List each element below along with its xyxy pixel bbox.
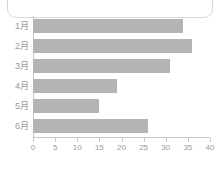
bar [33, 39, 192, 53]
axis-tick-label: 5 [45, 143, 65, 153]
horizontal-bar-chart: 1月2月3月4月5月6月 0510152025303540 [0, 0, 221, 169]
axis-tick-label: 20 [112, 143, 132, 153]
axis-tick [210, 138, 211, 142]
axis-tick [55, 138, 56, 142]
category-label: 5月 [15, 99, 29, 113]
plot-area: 1月2月3月4月5月6月 [33, 16, 210, 136]
axis-tick [188, 138, 189, 142]
axis-tick-label: 25 [134, 143, 154, 153]
axis-tick [144, 138, 145, 142]
axis-tick [33, 138, 34, 142]
axis-tick [122, 138, 123, 142]
bar [33, 99, 99, 113]
axis-tick-label: 15 [89, 143, 109, 153]
axis-tick-label: 30 [156, 143, 176, 153]
bar [33, 79, 117, 93]
bar [33, 119, 148, 133]
category-label: 2月 [15, 39, 29, 53]
axis-tick [77, 138, 78, 142]
bar-row: 2月 [33, 36, 210, 56]
bar [33, 19, 183, 33]
axis-tick-label: 35 [178, 143, 198, 153]
axis-tick-label: 0 [23, 143, 43, 153]
category-label: 6月 [15, 119, 29, 133]
screenshot-root: 1月2月3月4月5月6月 0510152025303540 [0, 0, 221, 169]
bar-row: 1月 [33, 16, 210, 36]
category-label: 1月 [15, 19, 29, 33]
axis-tick [166, 138, 167, 142]
axis-tick-label: 40 [200, 143, 220, 153]
bar-row: 6月 [33, 116, 210, 136]
axis-tick [99, 138, 100, 142]
bar-row: 5月 [33, 96, 210, 116]
axis-tick-label: 10 [67, 143, 87, 153]
bar-row: 4月 [33, 76, 210, 96]
category-label: 4月 [15, 79, 29, 93]
bar [33, 59, 170, 73]
category-label: 3月 [15, 59, 29, 73]
bar-row: 3月 [33, 56, 210, 76]
